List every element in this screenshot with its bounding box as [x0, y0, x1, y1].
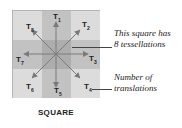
leader-line-tessellations	[72, 47, 112, 48]
label-t3: T3	[89, 54, 97, 65]
label-t1: T1	[53, 12, 61, 23]
label-t7: T7	[16, 55, 24, 66]
diagram-caption: SQUARE	[30, 108, 82, 117]
label-t6: T6	[26, 82, 34, 93]
label-t4: T4	[84, 82, 92, 93]
leader-line-translations	[92, 89, 112, 90]
label-t8: T8	[26, 22, 34, 33]
label-t5: T5	[54, 86, 62, 97]
annotation-tessellations: This square has 8 tessellations	[114, 28, 171, 50]
label-t2: T2	[82, 20, 90, 31]
annotation-translations: Number of translations	[114, 72, 157, 94]
